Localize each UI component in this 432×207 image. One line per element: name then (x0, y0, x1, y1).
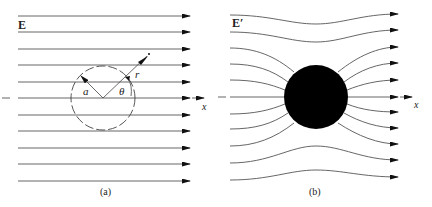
panel-a: x a r θ E (a) (2, 16, 207, 198)
angle-arc (128, 78, 131, 96)
distance-label: r (135, 68, 140, 80)
field-point-dot (148, 53, 150, 55)
x-axis-label: x (201, 101, 207, 112)
x-axis-label-b: x (413, 99, 419, 110)
panel-b: x E′ (b) (218, 14, 419, 198)
figure: x a r θ E (a) (0, 0, 432, 207)
caption-b: (b) (309, 186, 321, 198)
field-label-E-prime: E′ (232, 16, 243, 30)
angle-label: θ (119, 85, 125, 97)
radius-label: a (83, 85, 89, 97)
field-label-E: E (18, 18, 26, 32)
uniform-field-lines (18, 16, 190, 181)
conducting-sphere (284, 65, 348, 129)
caption-a: (a) (100, 186, 111, 198)
